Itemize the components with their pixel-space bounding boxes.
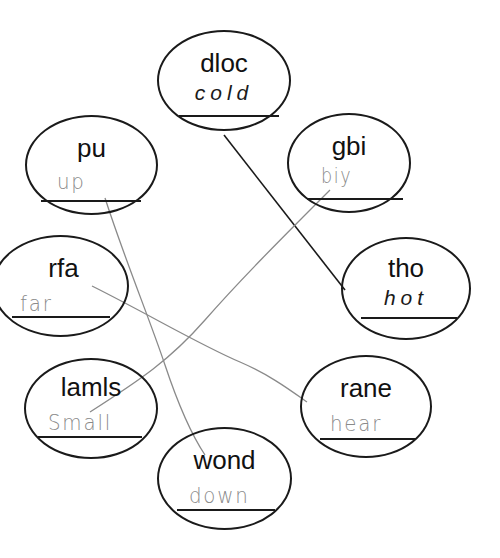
word-bubble-dloc: dloc cold xyxy=(157,30,291,131)
answer-line xyxy=(12,316,110,318)
scrambled-word: rfa xyxy=(0,255,127,281)
scrambled-word: gbi xyxy=(289,133,409,159)
handwritten-answer: up xyxy=(57,171,86,193)
answer-text: cold xyxy=(159,82,289,103)
antonym-matching-worksheet: dloc cold pu up gbi biy rfa far tho hot … xyxy=(0,0,500,558)
handwritten-answer: hear xyxy=(330,413,382,435)
word-bubble-rane: rane hear xyxy=(300,355,432,458)
answer-line xyxy=(179,115,279,117)
word-bubble-gbi: gbi biy xyxy=(287,113,411,213)
word-bubble-pu: pu up xyxy=(25,115,158,215)
handwritten-answer: down xyxy=(189,485,250,507)
word-bubble-tho: tho hot xyxy=(341,237,471,340)
scrambled-word: dloc xyxy=(159,50,289,76)
answer-text: hot xyxy=(343,287,469,308)
answer-line xyxy=(320,438,416,440)
answer-line xyxy=(41,200,141,202)
scrambled-word: rane xyxy=(302,375,430,401)
answer-line xyxy=(177,509,275,511)
answer-line xyxy=(361,317,457,319)
word-bubble-wond: wond down xyxy=(157,427,292,530)
answer-line xyxy=(307,198,403,200)
scrambled-word: lamls xyxy=(26,374,156,400)
word-bubble-lamls: lamls Small xyxy=(24,358,158,459)
scrambled-word: pu xyxy=(27,135,156,161)
scrambled-word: wond xyxy=(159,447,290,473)
handwritten-answer: Small xyxy=(48,412,112,434)
answer-line xyxy=(38,436,142,438)
scrambled-word: tho xyxy=(343,255,469,281)
handwritten-answer: far xyxy=(20,293,53,315)
handwritten-answer: biy xyxy=(321,165,352,187)
